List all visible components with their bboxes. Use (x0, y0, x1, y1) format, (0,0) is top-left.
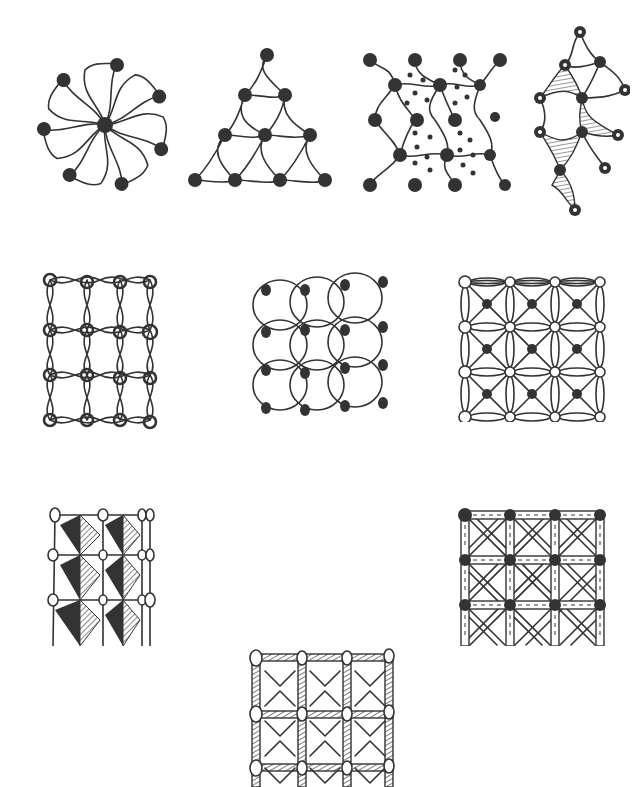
swirl-triangle-drawing (185, 40, 335, 200)
swirl-diamond-hatched-drawing (530, 20, 630, 220)
pattern-swirl-grid-dotted (355, 45, 515, 195)
triangle-hatched-grid-drawing (45, 505, 160, 646)
pattern-filled-dot-circle-grid (250, 270, 400, 420)
pattern-triangle-hatched-grid (45, 505, 160, 646)
striped-bar-grid-bars (245, 646, 395, 787)
pattern-swirl-diamond-hatched (530, 20, 630, 220)
pattern-striped-bar-grid-main (245, 505, 395, 787)
pattern-petal-lattice-grid (455, 272, 610, 422)
pattern-eye-ring-grid (40, 270, 160, 430)
pattern-swirl-triangle (185, 40, 335, 200)
swirl-grid-dotted-drawing (355, 45, 515, 195)
filled-dot-circle-grid-drawing (250, 270, 400, 420)
pinwheel-swirl-drawing (30, 40, 180, 210)
crosshatch-bead-grid-drawing (455, 505, 610, 646)
eye-ring-grid-drawing (40, 270, 160, 430)
petal-lattice-grid-drawing (455, 272, 610, 422)
pattern-pinwheel-swirl (30, 40, 180, 210)
pattern-crosshatch-bead-grid (455, 505, 610, 646)
